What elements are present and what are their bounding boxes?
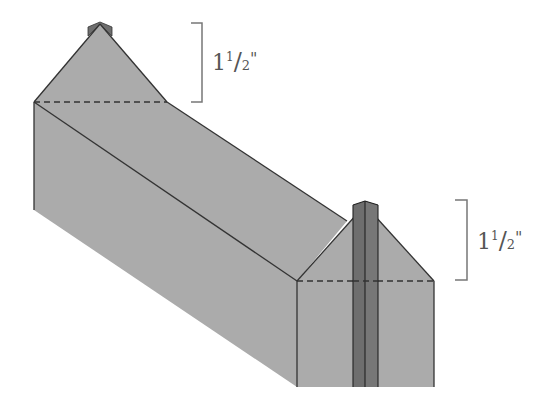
denominator: 2: [242, 58, 250, 73]
denominator: 2: [507, 237, 515, 252]
front-dimension-label: 11/2": [477, 229, 522, 253]
front-dimension-bracket: [455, 200, 467, 280]
front-chimney: [353, 201, 378, 387]
back-gable: [34, 24, 167, 102]
fraction-slash: /: [499, 227, 507, 255]
numerator: 1: [491, 229, 499, 243]
inch-unit: ": [515, 228, 522, 247]
whole-number: 1: [477, 229, 491, 254]
whole-number: 1: [212, 50, 226, 75]
numerator: 1: [226, 50, 234, 64]
back-dimension-bracket: [191, 23, 202, 102]
house-diagram: [0, 0, 549, 404]
inch-unit: ": [250, 49, 257, 68]
back-dimension-label: 11/2": [212, 50, 257, 74]
fraction-slash: /: [234, 48, 242, 76]
